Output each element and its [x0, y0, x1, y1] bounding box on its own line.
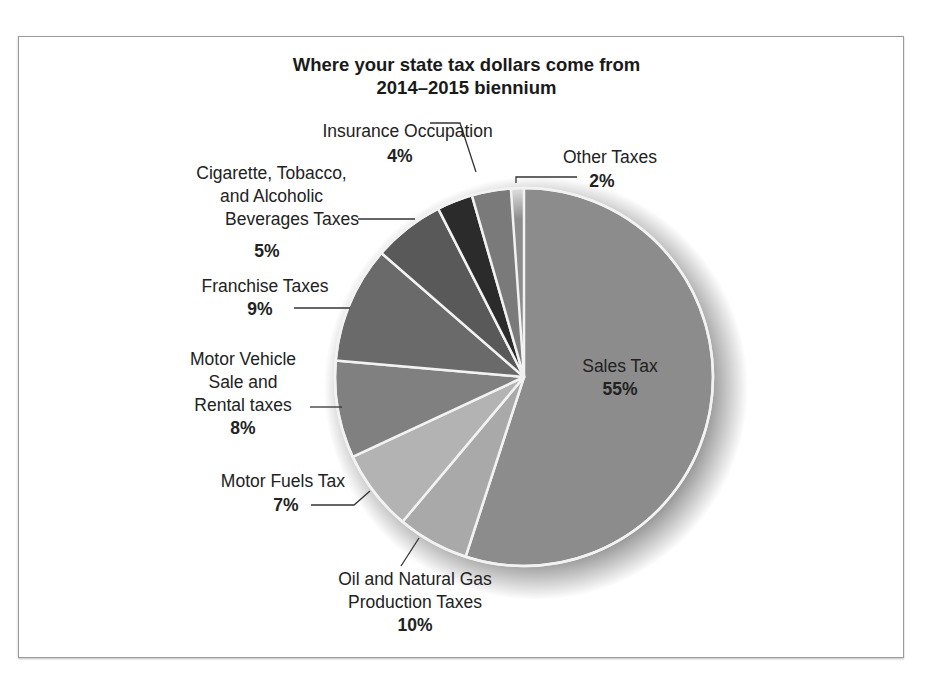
label-vehicle-pct: 8% — [178, 417, 308, 440]
label-franchise-name: Franchise Taxes — [185, 275, 345, 298]
label-insurance: Insurance Occupation — [300, 120, 515, 143]
label-other-name: Other Taxes — [550, 146, 670, 169]
label-other-pct: 2% — [582, 170, 622, 193]
label-oil: Oil and Natural Gas Production Taxes 10% — [300, 568, 530, 637]
label-sales-pct: 55% — [555, 378, 685, 401]
label-cigarette-name-3: Beverages Taxes — [184, 208, 359, 231]
label-cigarette-pct: 5% — [247, 240, 287, 263]
label-cigarette-name-2: and Alcoholic — [184, 185, 359, 208]
label-sales-name: Sales Tax — [555, 355, 685, 378]
label-fuels-name: Motor Fuels Tax — [210, 470, 345, 493]
label-franchise: Franchise Taxes — [185, 275, 345, 298]
label-fuels-pct: 7% — [266, 494, 306, 517]
label-insurance-pct: 4% — [380, 145, 420, 168]
label-vehicle: Motor Vehicle Sale and Rental taxes 8% — [178, 348, 308, 440]
label-oil-name-2: Production Taxes — [300, 591, 530, 614]
label-other: Other Taxes — [550, 146, 670, 169]
label-franchise-pct: 9% — [240, 298, 280, 321]
label-insurance-name: Insurance Occupation — [300, 120, 515, 143]
label-vehicle-name-1: Motor Vehicle — [178, 348, 308, 371]
label-vehicle-name-2: Sale and — [178, 371, 308, 394]
label-oil-name-1: Oil and Natural Gas — [300, 568, 530, 591]
label-vehicle-name-3: Rental taxes — [178, 394, 308, 417]
label-cigarette-name-1: Cigarette, Tobacco, — [184, 162, 359, 185]
label-oil-pct: 10% — [300, 614, 530, 637]
label-fuels: Motor Fuels Tax — [210, 470, 345, 493]
label-sales: Sales Tax 55% — [555, 355, 685, 401]
label-cigarette: Cigarette, Tobacco, and Alcoholic Bevera… — [184, 162, 359, 231]
